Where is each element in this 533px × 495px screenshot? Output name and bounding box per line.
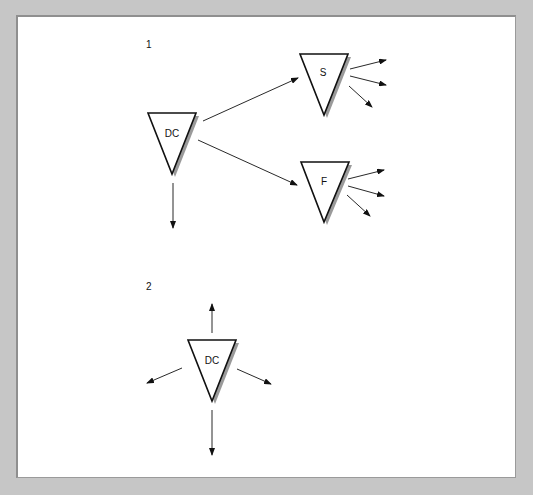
- section-1-arrows: [173, 60, 386, 228]
- node-label: F: [321, 176, 327, 187]
- section-2-label: 2: [146, 281, 152, 292]
- section-1-label: 1: [146, 39, 152, 50]
- arrow-dc2-right: [237, 369, 271, 384]
- triangle-shape: [301, 162, 349, 222]
- triangle-shape: [148, 113, 196, 174]
- arrow-s-out-1: [350, 60, 386, 69]
- node-label: DC: [205, 355, 219, 366]
- node-label: S: [320, 67, 327, 78]
- node-s: S: [300, 54, 351, 118]
- arrow-f-out-3: [347, 195, 370, 216]
- arrow-dc2-left: [147, 368, 182, 383]
- node-dc-2: DC: [188, 340, 239, 404]
- arrow-f-out-2: [348, 186, 384, 196]
- triangle-shape: [188, 340, 236, 401]
- arrow-dc-to-f: [198, 140, 297, 185]
- node-label: DC: [165, 128, 179, 139]
- diagram-canvas: 1 DC S F 2 DC: [0, 0, 533, 495]
- node-f: F: [301, 162, 352, 225]
- arrow-f-out-1: [348, 170, 384, 179]
- node-dc-1: DC: [148, 113, 199, 177]
- arrow-s-out-2: [350, 76, 386, 85]
- arrow-s-out-3: [349, 86, 372, 107]
- arrow-dc-to-s: [203, 78, 298, 121]
- triangle-shape: [300, 54, 348, 115]
